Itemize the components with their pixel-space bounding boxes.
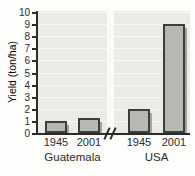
y-tick xyxy=(32,36,36,38)
bar-chart: Yield (ton/ha) 0123456789101945200119452… xyxy=(0,0,195,176)
x-tick-label: 1945 xyxy=(40,137,72,148)
y-tick-label: 2 xyxy=(10,105,30,115)
y-tick xyxy=(32,85,36,87)
x-tick-label: 2001 xyxy=(73,137,105,148)
bar xyxy=(78,118,100,133)
y-tick xyxy=(32,133,36,135)
y-tick xyxy=(32,48,36,50)
y-tick-label: 5 xyxy=(10,69,30,79)
y-tick-label: 4 xyxy=(10,81,30,91)
y-tick xyxy=(32,121,36,123)
bar xyxy=(45,121,67,133)
y-tick-label: 3 xyxy=(10,93,30,103)
bar xyxy=(163,24,185,133)
y-axis-line xyxy=(36,11,38,135)
y-tick-label: 8 xyxy=(10,32,30,42)
y-tick-label: 0 xyxy=(10,129,30,139)
y-tick-label: 7 xyxy=(10,44,30,54)
group-label: USA xyxy=(122,151,192,163)
y-tick-label: 6 xyxy=(10,56,30,66)
y-tick-label: 10 xyxy=(10,8,30,18)
y-tick xyxy=(32,97,36,99)
gridline xyxy=(38,12,190,13)
group-label: Guatemala xyxy=(38,151,108,163)
x-tick-label: 1945 xyxy=(123,137,155,148)
axis-break-stripe xyxy=(107,11,114,133)
bar xyxy=(128,109,150,133)
y-tick-label: 9 xyxy=(10,20,30,30)
y-tick xyxy=(32,109,36,111)
y-tick xyxy=(32,12,36,14)
y-tick xyxy=(32,73,36,75)
y-tick xyxy=(32,60,36,62)
y-tick xyxy=(32,24,36,26)
y-tick-label: 1 xyxy=(10,117,30,127)
x-tick-label: 2001 xyxy=(158,137,190,148)
